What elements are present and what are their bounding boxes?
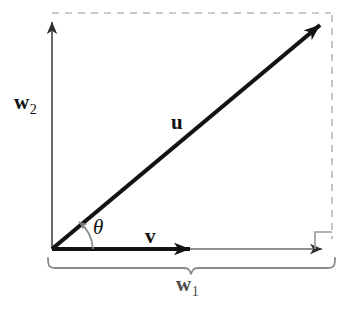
label-v: v (145, 226, 156, 247)
w1-brace (48, 258, 335, 274)
label-w2-subscript: 2 (29, 101, 37, 117)
label-w1: w1 (176, 274, 199, 298)
label-w2-base: w (14, 90, 29, 114)
label-w2: w2 (14, 92, 37, 116)
label-w1-base: w (176, 272, 191, 296)
label-w1-subscript: 1 (191, 283, 199, 299)
right-angle-marker-icon (315, 232, 332, 249)
label-u: u (171, 112, 183, 133)
label-theta: θ (93, 217, 103, 238)
vector-diagram-figure: w2 w1 u v θ (0, 0, 343, 312)
vector-diagram-canvas (0, 0, 343, 312)
